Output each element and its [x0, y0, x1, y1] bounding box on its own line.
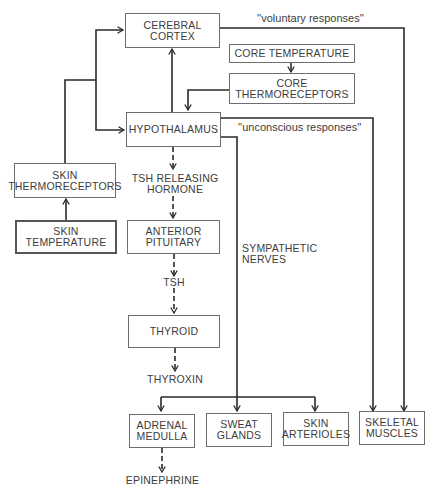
tsh-releasing-hormone-label: TSH RELEASINGHORMONE: [125, 173, 225, 195]
thyroid-label: THYROID: [150, 326, 199, 337]
skin-temperature-box: SKINTEMPERATURE: [15, 220, 117, 254]
sweat-glands-box: SWEATGLANDS: [206, 413, 272, 447]
unconscious-responses-label: ''unconscious responses'': [238, 121, 361, 133]
skeletal-muscles-box: SKELETALMUSCLES: [359, 411, 425, 445]
adrenal-medulla-label-2: MEDULLA: [137, 430, 188, 442]
thyroid-box: THYROID: [128, 315, 220, 348]
skin-thermoreceptors-label-2: THERMORECEPTORS: [8, 180, 122, 192]
skin-arterioles-box: SKINARTERIOLES: [283, 412, 349, 446]
core-thermoreceptors-box: CORETHERMORECEPTORS: [229, 73, 355, 104]
anterior-pituitary-box: ANTERIORPITUITARY: [127, 220, 220, 254]
core-temperature-label: CORE TEMPERATURE: [235, 48, 350, 59]
skin-thermoreceptors-box: SKINTHERMORECEPTORS: [14, 163, 116, 198]
skin-to-brain-line: [65, 80, 96, 163]
cerebral-cortex-box: CEREBRALCORTEX: [125, 13, 220, 48]
to-cortex-line: [96, 30, 123, 80]
core-temperature-box: CORE TEMPERATURE: [229, 44, 355, 63]
sympathetic-nerves-label: SYMPATHETICNERVES: [242, 243, 317, 265]
core-thermoreceptors-label-2: THERMORECEPTORS: [235, 88, 349, 100]
sympathetic-label-2: NERVES: [242, 253, 286, 265]
anterior-pituitary-label-2: PITUITARY: [146, 236, 202, 248]
adrenal-medulla-box: ADRENALMEDULLA: [129, 414, 195, 448]
sweat-glands-label-2: GLANDS: [217, 429, 261, 441]
hypothalamus-label: HYPOTHALAMUS: [129, 124, 218, 135]
trh-label-2: HORMONE: [147, 183, 203, 195]
skin-arterioles-label-2: ARTERIOLES: [282, 428, 350, 440]
tsh-label: TSH: [154, 277, 194, 288]
voluntary-responses-label: ''voluntary responses'': [257, 12, 364, 24]
hypothalamus-box: HYPOTHALAMUS: [126, 112, 221, 147]
thyroxin-label: THYROXIN: [140, 374, 210, 385]
skin-temperature-label-2: TEMPERATURE: [26, 236, 107, 248]
to-hypothalamus-line: [96, 80, 124, 130]
epinephrine-label: EPINEPHRINE: [125, 475, 200, 486]
core-to-hypothalamus-line: [188, 90, 229, 110]
skeletal-muscles-label-2: MUSCLES: [366, 427, 418, 439]
cerebral-cortex-label-2: CORTEX: [150, 30, 195, 42]
